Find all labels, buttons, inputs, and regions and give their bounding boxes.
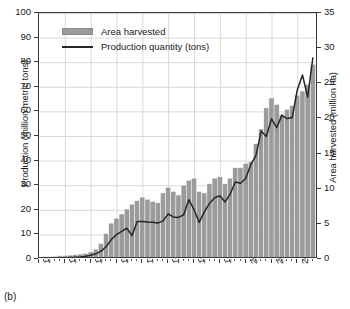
figure-panel-b: Production (million metric tons) Area ha…	[0, 0, 350, 309]
legend: Area harvested Production quantity (tons…	[62, 24, 209, 54]
legend-item-area-harvested: Area harvested	[62, 24, 209, 39]
legend-label-production-quantity: Production quantity (tons)	[101, 41, 209, 52]
figure-caption: (b)	[4, 291, 16, 302]
area-swatch-icon	[62, 28, 93, 35]
legend-label-area-harvested: Area harvested	[101, 26, 165, 37]
legend-item-production-quantity: Production quantity (tons)	[62, 39, 209, 54]
line-swatch-icon	[62, 43, 93, 50]
